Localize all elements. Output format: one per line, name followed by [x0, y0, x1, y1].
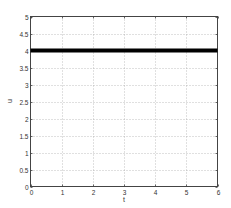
line-chart: 012345600.511.522.533.544.55 t u: [0, 0, 231, 208]
x-tick-label: 3: [123, 189, 127, 196]
y-tick-label: 1: [25, 150, 29, 157]
y-tick-label: 0.5: [19, 167, 28, 174]
y-tick-label: 2.5: [19, 99, 28, 106]
y-tick-label: 0: [25, 184, 29, 191]
x-axis-label: t: [123, 196, 125, 203]
x-tick-label: 5: [185, 189, 189, 196]
x-tick-label: 4: [154, 189, 158, 196]
axis-ticks: 012345600.511.522.533.544.55: [19, 14, 220, 196]
x-tick-label: 6: [217, 189, 221, 196]
x-tick-label: 2: [92, 189, 96, 196]
y-tick-label: 1.5: [19, 133, 28, 140]
y-tick-label: 2: [25, 116, 29, 123]
y-tick-label: 3: [25, 82, 29, 89]
chart-canvas: 012345600.511.522.533.544.55 t u: [0, 0, 231, 208]
x-tick-label: 1: [61, 189, 65, 196]
y-tick-label: 4.5: [19, 31, 28, 38]
plot-area-frame: [31, 17, 218, 187]
y-tick-label: 3.5: [19, 65, 28, 72]
y-tick-label: 4: [25, 48, 29, 55]
y-axis-label: u: [6, 99, 13, 103]
y-tick-label: 5: [25, 14, 29, 21]
grid-lines: [31, 17, 218, 187]
x-tick-label: 0: [30, 189, 34, 196]
